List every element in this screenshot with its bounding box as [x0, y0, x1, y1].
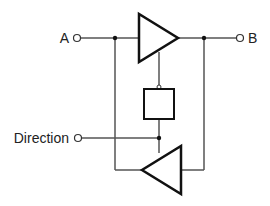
label-port-b: B	[248, 30, 257, 46]
label-port-a: A	[60, 30, 70, 46]
junction-dot-direction	[157, 136, 161, 140]
terminal-b-icon	[237, 35, 244, 42]
bidirectional-buffer-diagram: A B Direction	[0, 0, 270, 206]
buffer-b-to-a-symbol	[142, 146, 181, 194]
terminal-direction-icon	[75, 135, 82, 142]
junction-dot-left	[113, 36, 117, 40]
junction-dot-right	[202, 36, 206, 40]
inverter-box	[144, 89, 174, 119]
label-direction: Direction	[14, 130, 69, 146]
terminal-a-icon	[74, 35, 81, 42]
